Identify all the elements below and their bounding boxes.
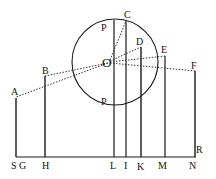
label-H: H [42, 160, 49, 171]
label-M: M [158, 160, 167, 171]
label-P-top: P [101, 22, 107, 33]
label-B: B [42, 65, 49, 76]
circle [72, 19, 158, 105]
geometric-diagram: O P P C D E F A B R S G H L I K M N [0, 0, 216, 179]
label-A: A [11, 86, 19, 97]
label-R: R [196, 144, 203, 155]
ray-OA [16, 63, 108, 97]
ray-OC [110, 21, 126, 60]
label-L: L [110, 160, 116, 171]
label-G: G [19, 160, 26, 171]
label-P-bottom: P [101, 96, 107, 107]
ray-OB [45, 63, 108, 76]
label-E: E [161, 44, 167, 55]
label-K: K [137, 161, 145, 172]
label-D: D [136, 36, 143, 47]
label-N: N [189, 160, 196, 171]
label-I: I [124, 160, 127, 171]
ray-OF [110, 63, 195, 71]
label-F: F [191, 60, 197, 71]
label-O: O [102, 55, 111, 70]
label-C: C [124, 9, 131, 20]
label-S: S [11, 160, 17, 171]
